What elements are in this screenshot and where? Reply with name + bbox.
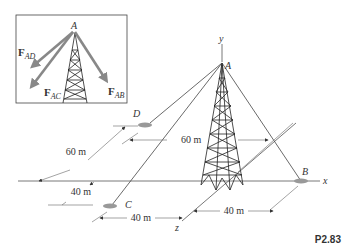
dim-40m-bottom-right: 40 m bbox=[224, 205, 245, 216]
dim-40m-bottom-left: 40 m bbox=[131, 212, 152, 223]
point-B-label: B bbox=[302, 166, 308, 177]
x-axis-label: x bbox=[322, 175, 328, 186]
inset-point-A-label: A bbox=[70, 20, 78, 31]
z-axis-label: z bbox=[174, 222, 179, 233]
dim-60m-mid: 60 m bbox=[181, 134, 202, 145]
dim-60m-left: 60 m bbox=[66, 146, 87, 157]
wire-AD bbox=[150, 63, 222, 123]
anchor-B bbox=[294, 179, 308, 184]
y-axis-label: y bbox=[218, 33, 224, 44]
dim-40m-left: 40 m bbox=[71, 186, 92, 197]
point-A-label: A bbox=[224, 60, 232, 71]
inset-force-diagram: A FAD FAC FAB bbox=[16, 15, 127, 103]
wire-AC bbox=[112, 63, 222, 205]
anchor-C bbox=[103, 204, 117, 209]
point-D-label: D bbox=[132, 108, 141, 119]
point-C-label: C bbox=[125, 199, 132, 210]
problem-number: P2.83 bbox=[315, 234, 342, 245]
tower-guy-wire-diagram: A FAD FAC FAB x y z A B C D 60 m 60 m bbox=[0, 0, 350, 248]
wire-AB bbox=[222, 63, 301, 181]
anchor-D bbox=[138, 123, 152, 128]
